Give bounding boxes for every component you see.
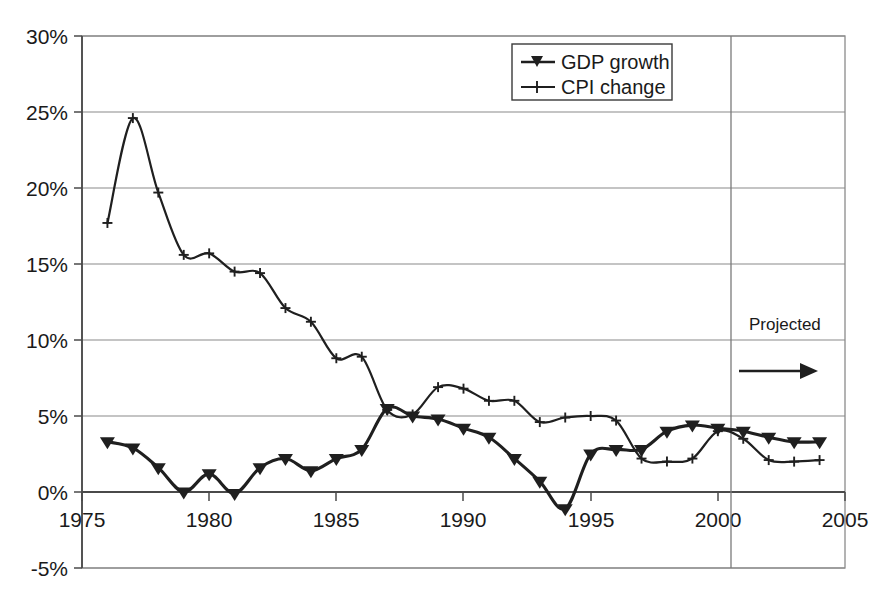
y-tick-label: 10%	[26, 329, 68, 352]
legend-label-cpi: CPI change	[561, 76, 666, 98]
y-tick-label: 20%	[26, 177, 68, 200]
y-tick-label: 30%	[26, 25, 68, 48]
x-tick-label: 2000	[695, 508, 742, 531]
y-tick-label: 25%	[26, 101, 68, 124]
x-tick-label: 1995	[568, 508, 615, 531]
projected-label: Projected	[749, 315, 821, 334]
x-tick-label: 1980	[186, 508, 233, 531]
chart-legend: GDP growth CPI change	[512, 44, 672, 100]
chart-container: 30% 25% 20% 15% 10% 5% 0% -5% 1975 1980 …	[0, 0, 888, 596]
y-axis-tick-labels: 30% 25% 20% 15% 10% 5% 0% -5%	[26, 25, 68, 580]
y-tick-label: 15%	[26, 253, 68, 276]
legend-label-gdp: GDP growth	[561, 51, 670, 73]
y-tick-label: 5%	[38, 405, 68, 428]
x-tick-label: 2005	[822, 508, 869, 531]
y-tickmarks	[74, 36, 82, 568]
x-tick-label: 1985	[313, 508, 360, 531]
x-tick-label: 1990	[440, 508, 487, 531]
gdp-cpi-line-chart: 30% 25% 20% 15% 10% 5% 0% -5% 1975 1980 …	[0, 0, 888, 596]
y-tick-label: -5%	[31, 557, 68, 580]
y-tick-label: 0%	[38, 481, 68, 504]
x-tick-label: 1975	[59, 508, 106, 531]
